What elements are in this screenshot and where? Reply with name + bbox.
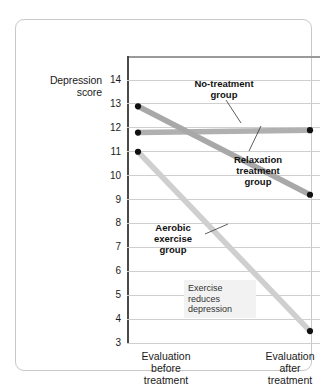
data-point-marker: [135, 130, 141, 136]
y-tick-label: 12: [97, 123, 121, 133]
y-tick-label: 10: [97, 171, 121, 181]
y-tick-label: 5: [97, 290, 121, 300]
data-point-marker: [135, 149, 141, 155]
x-axis-label-before: Evaluation before treatment: [120, 350, 212, 386]
data-point-marker: [307, 328, 313, 334]
y-tick-label: 6: [97, 266, 121, 276]
y-tick-label: 8: [97, 218, 121, 228]
plot-area: 14131211109876543 No-treatment group Rel…: [127, 56, 320, 343]
y-axis-title: Depression score: [24, 75, 102, 98]
y-tick-label: 3: [97, 338, 121, 348]
y-tick-label: 11: [97, 147, 121, 157]
y-tick-label: 14: [97, 75, 121, 85]
series-label-aerobic: Aerobic exercise group: [139, 222, 207, 255]
data-point-marker: [307, 127, 313, 133]
data-point-marker: [135, 103, 141, 109]
x-axis-label-after: Evaluation after treatment: [244, 350, 330, 386]
y-tick-label: 9: [97, 195, 121, 205]
y-tick-label: 4: [97, 314, 121, 324]
leader-line-no-treatment: [226, 100, 241, 123]
series-label-no-treatment: No-treatment group: [182, 78, 266, 100]
y-tick-label: 7: [97, 242, 121, 252]
y-tick-label: 13: [97, 99, 121, 109]
figure-card: Depression score 14131211109876543 No-tr…: [15, 19, 312, 371]
series-label-relaxation: Relaxation treatment group: [219, 154, 297, 187]
data-point-marker: [307, 192, 313, 198]
annotation-exercise-reduces-depression: Exercise reduces depression: [184, 280, 256, 318]
series-line-0: [138, 130, 310, 132]
